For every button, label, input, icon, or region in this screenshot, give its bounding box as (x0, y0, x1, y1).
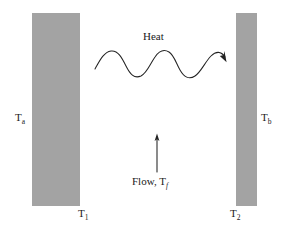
label-t-a: Ta (15, 112, 25, 123)
flow-arrow (155, 134, 160, 173)
label-flow: Flow, Tf (132, 176, 168, 187)
wavy-heat-arrow (95, 51, 227, 78)
label-t-2: T2 (230, 208, 240, 219)
label-t-b: Tb (261, 112, 271, 123)
label-t-1: T1 (78, 208, 88, 219)
heat-transfer-diagram: Ta Tb T1 T2 Heat Flow, Tf (0, 0, 285, 230)
label-heat: Heat (143, 31, 164, 42)
